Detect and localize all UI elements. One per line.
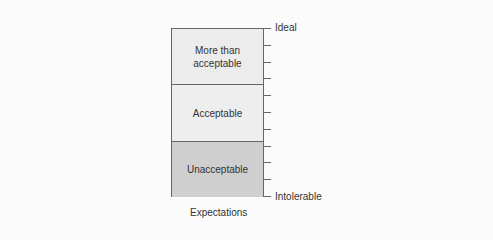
scale-tick xyxy=(264,179,271,180)
scale-tick xyxy=(264,196,271,197)
scale-tick xyxy=(264,162,271,163)
scale-tick xyxy=(264,62,271,63)
band-label: Acceptable xyxy=(193,107,242,120)
band-more-than-acceptable: More thanacceptable xyxy=(172,29,263,85)
scale-tick xyxy=(264,78,271,79)
band-unacceptable: Unacceptable xyxy=(172,142,263,197)
expectations-box: More thanacceptable Acceptable Unaccepta… xyxy=(171,28,264,197)
scale-tick xyxy=(264,28,271,29)
scale-tick xyxy=(264,112,271,113)
scale-tick xyxy=(264,146,271,147)
band-acceptable: Acceptable xyxy=(172,85,263,142)
scale-tick xyxy=(264,129,271,130)
scale-tick xyxy=(264,95,271,96)
band-label-line1: More than xyxy=(195,45,240,56)
scale-top-label: Ideal xyxy=(275,22,297,33)
diagram-caption: Expectations xyxy=(190,207,247,218)
scale-tick xyxy=(264,45,271,46)
band-label: Unacceptable xyxy=(187,163,248,176)
scale-bottom-label: Intolerable xyxy=(275,191,322,202)
band-label-line2: acceptable xyxy=(193,58,241,69)
